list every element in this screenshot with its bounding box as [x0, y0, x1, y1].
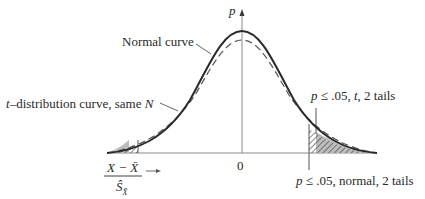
x-label-denominator: ŜX̄ — [116, 180, 127, 197]
normal-tails-label: p ≤ .05, normal, 2 tails — [296, 174, 414, 187]
distribution-diagram: p Normal curve t–distribution curve, sam… — [0, 0, 425, 199]
t-tails-text: ≤ .05, — [318, 88, 354, 103]
normal-right-tail-hatch — [309, 129, 370, 153]
x-label-denominator-sub: X̄ — [123, 188, 128, 197]
x-label-numerator: X − X̄ — [107, 161, 138, 174]
normal-tails-text: ≤ .05, normal, 2 tails — [303, 173, 414, 188]
normal-curve-leader — [196, 44, 211, 54]
origin-label: 0 — [237, 159, 244, 172]
x-label-arrow-icon — [156, 169, 161, 173]
y-axis-label: p — [229, 4, 236, 17]
t-curve-label-n: N — [145, 96, 154, 111]
t-curve-label-text: –distribution curve, same — [10, 96, 145, 111]
t-tails-end: , 2 tails — [358, 88, 396, 103]
normal-curve-label: Normal curve — [122, 35, 194, 48]
y-axis-arrow-icon — [240, 9, 245, 16]
t-tails-label: p ≤ .05, t, 2 tails — [311, 89, 395, 102]
t-curve-label: t–distribution curve, same N — [6, 97, 153, 110]
t-curve-leader — [160, 103, 178, 111]
